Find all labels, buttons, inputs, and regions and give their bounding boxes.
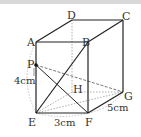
label-h: H [73, 83, 83, 96]
label-fg-length: 5cm [107, 102, 129, 113]
label-c: C [122, 10, 130, 23]
label-a: A [26, 36, 36, 49]
label-ep-length: 4cm [14, 75, 36, 86]
label-e: E [28, 116, 36, 129]
label-p: P [27, 58, 35, 71]
label-f: F [85, 116, 93, 129]
point-p [34, 63, 38, 67]
label-b: B [82, 36, 90, 49]
cuboid-diagram: A B C D E F G H P 4cm 3cm 5cm [0, 0, 141, 137]
label-ef-length: 3cm [54, 117, 76, 128]
label-d: D [67, 9, 76, 22]
visible-edges [36, 20, 123, 113]
